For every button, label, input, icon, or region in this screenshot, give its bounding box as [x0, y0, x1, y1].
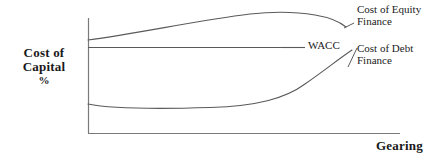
y-axis-unit-percent: % — [6, 74, 82, 86]
x-axis-title: Gearing — [376, 138, 423, 153]
series-line-cost-of-equity-finance — [88, 12, 346, 40]
y-axis-title: Cost of Capital % — [6, 46, 82, 86]
y-axis-title-line-1: Cost — [24, 45, 50, 60]
series-label-equity-line-1: Cost of Equity — [357, 4, 421, 16]
series-label-wacc: WACC — [308, 40, 340, 52]
y-axis-title-line-3: Capital — [23, 59, 66, 74]
series-label-debt-line-1: Cost of Debt — [357, 43, 413, 55]
series-label-equity-line-2: Finance — [357, 16, 421, 28]
series-label-wacc-line-1: WACC — [308, 40, 340, 52]
series-label-cost-of-debt-finance: Cost of Debt Finance — [357, 43, 413, 66]
equity-leader-line — [344, 23, 354, 28]
chart-figure: Cost of Capital % Gearing Cost of Equity… — [0, 0, 436, 160]
debt-leader-line — [348, 48, 357, 67]
series-line-cost-of-debt-finance — [88, 50, 352, 108]
series-label-cost-of-equity-finance: Cost of Equity Finance — [357, 4, 421, 27]
series-label-debt-line-2: Finance — [357, 55, 413, 67]
y-axis-title-line-2: of — [53, 45, 64, 60]
